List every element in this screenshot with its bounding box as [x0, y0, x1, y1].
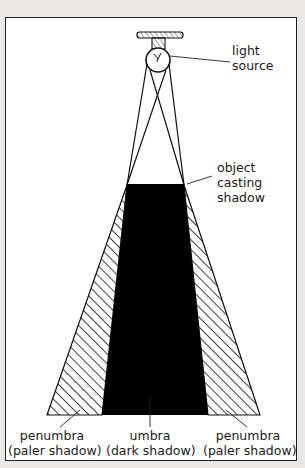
- penumbra-left-label: penumbra (paler shadow): [8, 428, 96, 458]
- penumbra-right-line1: penumbra: [203, 428, 293, 443]
- light-source-line1: light: [232, 43, 274, 58]
- umbra-label: umbra (dark shadow): [106, 428, 194, 458]
- penumbra-left-line1: penumbra: [8, 428, 96, 443]
- penumbra-left-line2: (paler shadow): [8, 443, 96, 458]
- umbra-line1: umbra: [106, 428, 194, 443]
- light-source-line2: source: [232, 58, 274, 73]
- light-rays: [127, 64, 184, 185]
- light-source-label: light source: [232, 43, 274, 73]
- light-bulb-icon: [137, 32, 183, 72]
- object-line1: object: [217, 160, 265, 175]
- object-label: object casting shadow: [217, 160, 265, 205]
- umbra-line2: (dark shadow): [106, 443, 194, 458]
- penumbra-right-label: penumbra (paler shadow): [203, 428, 293, 458]
- object-line3: shadow: [217, 190, 265, 205]
- penumbra-right-line2: (paler shadow): [203, 443, 293, 458]
- object-line2: casting: [217, 175, 265, 190]
